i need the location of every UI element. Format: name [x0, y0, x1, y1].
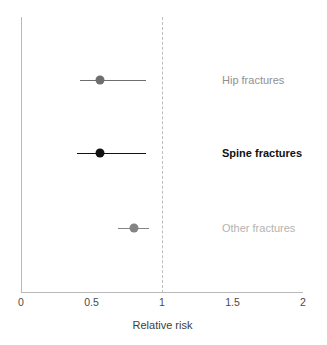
estimate-point-marker	[95, 76, 104, 85]
estimate-point-marker	[95, 149, 104, 158]
forest-plot-figure: 00.511.52 Hip fracturesSpine fracturesOt…	[0, 0, 327, 345]
x-axis-tick-label: 0	[18, 296, 24, 309]
y-axis-line	[21, 17, 22, 293]
x-axis-title-text: Relative risk	[133, 319, 193, 331]
forest-row-label: Other fractures	[222, 221, 295, 235]
confidence-interval-line	[77, 153, 146, 154]
estimate-point-marker	[129, 224, 138, 233]
null-effect-reference-line	[162, 17, 163, 293]
confidence-interval-line	[80, 80, 146, 81]
forest-row-label: Spine fractures	[222, 146, 302, 160]
x-axis-tick-label: 0.5	[84, 296, 99, 309]
x-axis-tick-label: 1.5	[225, 296, 240, 309]
x-axis-tick-label: 1	[159, 296, 165, 309]
x-axis-tick-label: 2	[300, 296, 306, 309]
forest-row-label: Hip fractures	[222, 73, 284, 87]
x-axis-title: Relative risk	[0, 319, 327, 331]
